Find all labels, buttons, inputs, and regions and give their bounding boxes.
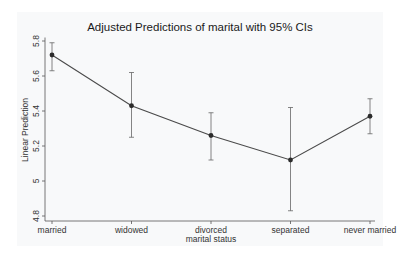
x-axis: marriedwidoweddivorcedseparatednever mar… [38,221,397,235]
y-axis: 4.855.25.45.65.8 [31,35,45,222]
x-tick-label: separated [272,225,310,235]
y-tick-label: 5.2 [31,140,41,152]
y-tick-label: 5.8 [31,35,41,47]
y-tick-label: 5 [31,178,41,183]
x-tick-label: widowed [114,225,148,235]
x-tick-label: never married [344,225,397,235]
y-tick-label: 5.6 [31,70,41,82]
data-point [50,53,55,58]
data-point [209,133,214,138]
chart-title: Adjusted Predictions of marital with 95%… [87,21,313,33]
y-axis-title: Linear Prediction [20,98,30,162]
x-axis-title: marital status [186,234,237,244]
y-tick-label: 5.4 [31,105,41,117]
data-point [288,158,293,163]
data-point [129,103,134,108]
data-point [368,114,373,119]
chart: Adjusted Predictions of marital with 95%… [0,0,415,258]
y-tick-label: 4.8 [31,210,41,222]
confidence-intervals [50,43,373,211]
x-tick-label: married [38,225,67,235]
